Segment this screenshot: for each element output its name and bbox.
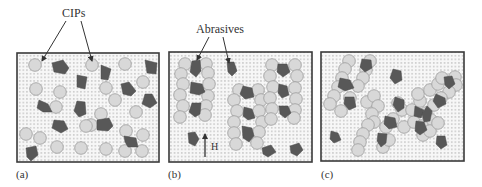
cip-particle: [120, 125, 133, 138]
cip-particle: [137, 76, 150, 89]
cip-particle: [267, 81, 280, 94]
cip-particle: [75, 142, 88, 155]
cip-particle: [335, 105, 348, 118]
cip-particle: [289, 59, 302, 72]
panel-c-chain-distortion: [321, 52, 464, 161]
cip-particle: [231, 105, 244, 118]
cip-particle: [265, 113, 278, 126]
cip-particle: [177, 78, 190, 91]
cip-particle: [264, 70, 277, 83]
cip-particle: [29, 59, 42, 72]
abrasives-label: Abrasives: [196, 22, 244, 36]
panel-c-label: (c): [321, 168, 334, 181]
cip-particle: [30, 83, 43, 96]
cip-particle: [199, 109, 212, 122]
cip-particle: [352, 80, 365, 93]
cip-particle: [412, 88, 425, 101]
cip-particle: [54, 86, 67, 99]
cip-particle: [100, 82, 113, 95]
cip-particle: [20, 128, 33, 141]
cip-particle: [119, 58, 132, 71]
cip-particle: [130, 106, 143, 119]
diagram-canvas: CIPs Abrasives H (a) (b) (c): [0, 0, 482, 187]
cip-particle: [100, 143, 113, 156]
panel-a-random-dispersion: [17, 53, 159, 162]
cip-particle: [253, 126, 266, 139]
cip-particle: [230, 138, 243, 151]
panel-b-label: (b): [168, 168, 181, 181]
magnetic-abrasive-diagram: CIPs Abrasives H (a) (b) (c): [0, 0, 482, 187]
cip-particle: [264, 92, 277, 105]
cip-particle: [80, 120, 93, 133]
cip-particle: [174, 111, 187, 124]
panel-b-chain-formation: [169, 52, 312, 162]
cip-particle: [228, 127, 241, 140]
magnetic-field-label: H: [211, 141, 218, 152]
panel-a-label: (a): [16, 168, 29, 181]
cip-particle: [109, 94, 122, 107]
cip-particle: [203, 78, 216, 91]
abrasive-particle: [77, 75, 87, 89]
cip-particle: [352, 144, 365, 157]
cip-particle: [324, 98, 337, 111]
cip-particle: [34, 132, 47, 145]
cip-particle: [174, 89, 187, 102]
cip-particle: [251, 137, 264, 150]
cip-particle: [228, 94, 241, 107]
cip-particle: [51, 141, 64, 154]
cip-particle: [253, 105, 266, 118]
cip-particle: [137, 129, 150, 142]
cip-particle: [177, 100, 190, 113]
cip-particle: [432, 117, 445, 130]
cip-particle: [291, 70, 304, 83]
cip-particle: [266, 59, 279, 72]
cips-label: CIPs: [62, 6, 86, 20]
